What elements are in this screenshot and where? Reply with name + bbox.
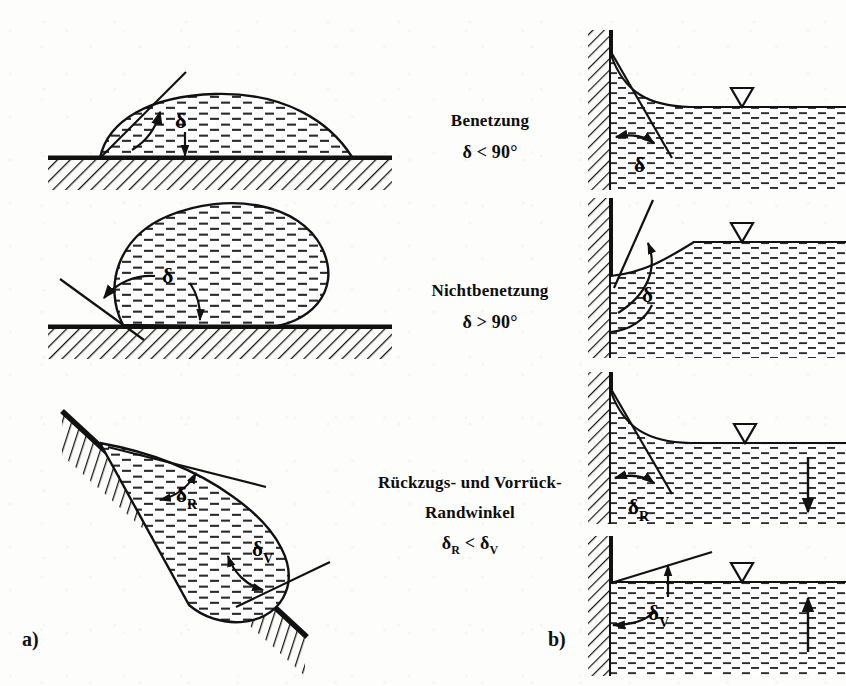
diagram-drop-inclined: δR δV	[62, 411, 330, 676]
caption-wetting: Benetzung δ < 90°	[400, 108, 580, 166]
diagram-wall-receding: δR	[588, 372, 846, 524]
caption-ra-line1: Rückzugs- und Vorrück-	[348, 470, 592, 496]
wall-hatch-2	[588, 198, 610, 358]
caption-ra-line2: Randwinkel	[348, 500, 592, 526]
diagram-drop-wetting: δ	[48, 72, 392, 190]
liquid-body-3	[611, 392, 846, 524]
drop-wetting-body	[100, 94, 352, 158]
angle-label-delta: δ	[175, 108, 186, 133]
caption-non-wetting-formula: δ > 90°	[390, 309, 590, 336]
ra-sub-right: V	[489, 543, 498, 557]
diagram-wall-advancing: δV	[588, 536, 846, 676]
water-level-marker-4	[731, 563, 753, 582]
caption-non-wetting-title: Nichtbenetzung	[390, 278, 590, 304]
panel-label-b: b)	[548, 628, 566, 651]
wall-hatch-1	[588, 30, 610, 190]
water-level-marker-1	[731, 88, 753, 107]
ra-sub-left: R	[451, 543, 460, 557]
diagram-wall-non-wetting: δ	[588, 198, 846, 358]
ra-relation: <	[465, 533, 475, 553]
meniscus-curve-3	[611, 392, 846, 443]
figure-canvas: δ δ	[0, 0, 846, 686]
water-level-marker-3	[734, 424, 756, 443]
water-level-marker-2	[731, 223, 753, 242]
drop-non-wetting-body	[114, 203, 328, 327]
caption-ra-formula: δR < δV	[348, 530, 592, 559]
meniscus-curve-1	[611, 55, 846, 107]
angle-label-delta-2: δ	[162, 263, 173, 288]
liquid-body-4	[611, 582, 846, 676]
diagram-drop-non-wetting: δ	[48, 203, 392, 359]
caption-receding-advancing: Rückzugs- und Vorrück- Randwinkel δR < δ…	[348, 470, 592, 559]
angle-label-wall-1: δ	[634, 153, 645, 177]
solid-hatch-block	[48, 160, 392, 190]
solid-hatch-block-2	[48, 329, 392, 359]
caption-non-wetting: Nichtbenetzung δ > 90°	[390, 278, 590, 336]
panel-label-a: a)	[22, 628, 39, 651]
liquid-body-1	[611, 55, 846, 190]
ra-delta-left: δ	[442, 533, 452, 553]
caption-wetting-formula: δ < 90°	[400, 139, 580, 166]
angle-label-wall-2: δ	[642, 283, 653, 307]
diagram-wall-wetting: δ	[588, 30, 846, 190]
tangent-wall-4	[611, 552, 712, 583]
caption-wetting-title: Benetzung	[400, 108, 580, 134]
contact-angle-figure: δ δ	[0, 0, 846, 686]
